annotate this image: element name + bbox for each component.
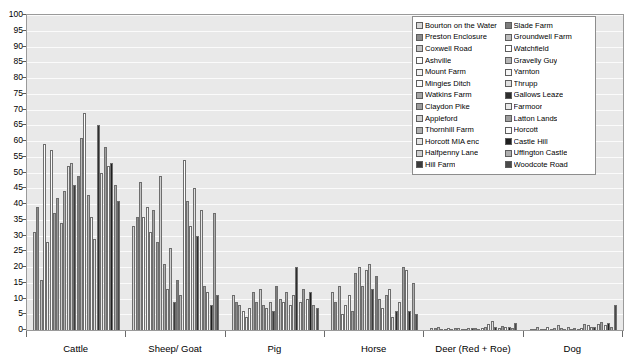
legend-item-label: Yarnton (514, 68, 540, 76)
legend-swatch-icon (416, 34, 423, 41)
bar-group (226, 15, 325, 330)
legend-item[interactable]: Uffington Castle (505, 148, 594, 160)
legend-swatch-icon (505, 103, 512, 110)
chart-legend: Bourton on the WaterPreston EnclosureCox… (412, 16, 596, 175)
legend-item-label: Hill Farm (425, 161, 455, 169)
legend-swatch-icon (416, 127, 423, 134)
x-tick-label: Dog (523, 343, 622, 354)
legend-item[interactable]: Gravelly Guy (505, 55, 594, 67)
bar-group (126, 15, 225, 330)
legend-swatch-icon (505, 161, 512, 168)
legend-item-label: Uffington Castle (514, 149, 568, 157)
y-tick-label: 100 (9, 10, 23, 18)
legend-swatch-icon (505, 69, 512, 76)
legend-swatch-icon (505, 127, 512, 134)
legend-item-label: Thornhill Farm (425, 126, 474, 134)
legend-item[interactable]: Coxwell Road (416, 43, 505, 55)
legend-item[interactable]: Gallows Leaze (505, 90, 594, 102)
legend-item-label: Castle Hill (514, 138, 548, 146)
legend-item[interactable]: Appleford (416, 113, 505, 125)
legend-item[interactable]: Woodcote Road (505, 159, 594, 171)
legend-item-label: Slade Farm (514, 22, 553, 30)
legend-swatch-icon (505, 45, 512, 52)
legend-item-label: Woodcote Road (514, 161, 568, 169)
legend-item-label: Watchfield (514, 45, 549, 53)
legend-swatch-icon (505, 80, 512, 87)
legend-item[interactable]: Groundwell Farm (505, 32, 594, 44)
legend-item-label: Preston Enclosure (425, 33, 487, 41)
bar-chart: 0510152025303540455055606570758085909510… (0, 0, 626, 362)
legend-swatch-icon (505, 57, 512, 64)
legend-item[interactable]: Ashville (416, 55, 505, 67)
x-tick-mark (324, 331, 325, 337)
x-tick-mark (26, 331, 27, 337)
legend-item-label: Groundwell Farm (514, 33, 572, 41)
legend-item-label: Gravelly Guy (514, 57, 558, 65)
x-axis: CattleSheep/ GoatPigHorseDeer (Red + Roe… (26, 331, 624, 362)
legend-item[interactable]: Preston Enclosure (416, 32, 505, 44)
legend-swatch-icon (416, 103, 423, 110)
legend-swatch-icon (416, 161, 423, 168)
x-tick-label: Horse (324, 343, 423, 354)
legend-swatch-icon (505, 22, 512, 29)
legend-item[interactable]: Hill Farm (416, 159, 505, 171)
legend-item-label: Mount Farm (425, 68, 466, 76)
legend-item-label: Halfpenny Lane (425, 149, 478, 157)
x-tick-mark (125, 331, 126, 337)
legend-item[interactable]: Horcott MIA enc (416, 136, 505, 148)
legend-item[interactable]: Castle Hill (505, 136, 594, 148)
legend-column-left: Bourton on the WaterPreston EnclosureCox… (416, 20, 505, 171)
legend-item[interactable]: Thrupp (505, 78, 594, 90)
legend-item[interactable]: Bourton on the Water (416, 20, 505, 32)
legend-item[interactable]: Slade Farm (505, 20, 594, 32)
legend-item[interactable]: Mount Farm (416, 66, 505, 78)
legend-item-label: Horcott MIA enc (425, 138, 479, 146)
bar (514, 323, 517, 330)
x-tick-mark (523, 331, 524, 337)
legend-item[interactable]: Horcott (505, 124, 594, 136)
x-tick-label: Sheep/ Goat (125, 343, 224, 354)
legend-item-label: Bourton on the Water (425, 22, 497, 30)
legend-swatch-icon (505, 92, 512, 99)
bar-group (27, 15, 126, 330)
legend-item[interactable]: Yarnton (505, 66, 594, 78)
x-tick-mark (423, 331, 424, 337)
legend-swatch-icon (416, 57, 423, 64)
legend-item-label: Ashville (425, 57, 451, 65)
legend-swatch-icon (416, 138, 423, 145)
legend-item-label: Farmoor (514, 103, 543, 111)
legend-item-label: Mingies Ditch (425, 80, 471, 88)
bar (614, 305, 617, 330)
legend-item[interactable]: Watchfield (505, 43, 594, 55)
legend-item[interactable]: Mingies Ditch (416, 78, 505, 90)
legend-item[interactable]: Claydon Pike (416, 101, 505, 113)
x-tick-mark (622, 331, 623, 337)
bar (316, 308, 319, 330)
x-tick-label: Cattle (26, 343, 125, 354)
legend-swatch-icon (416, 92, 423, 99)
legend-swatch-icon (505, 115, 512, 122)
legend-item[interactable]: Halfpenny Lane (416, 148, 505, 160)
legend-item-label: Horcott (514, 126, 538, 134)
legend-item[interactable]: Thornhill Farm (416, 124, 505, 136)
legend-item-label: Watkins Farm (425, 91, 472, 99)
legend-swatch-icon (416, 22, 423, 29)
bar (117, 201, 120, 330)
legend-item-label: Coxwell Road (425, 45, 472, 53)
legend-item[interactable]: Latton Lands (505, 113, 594, 125)
legend-swatch-icon (416, 69, 423, 76)
chart-title (0, 0, 626, 7)
bar (216, 295, 219, 330)
bar-group (325, 15, 424, 330)
legend-item[interactable]: Farmoor (505, 101, 594, 113)
legend-swatch-icon (416, 150, 423, 157)
legend-item[interactable]: Watkins Farm (416, 90, 505, 102)
x-tick-label: Deer (Red + Roe) (423, 343, 522, 354)
legend-item-label: Latton Lands (514, 115, 558, 123)
legend-swatch-icon (416, 45, 423, 52)
bar (415, 314, 418, 330)
legend-column-right: Slade FarmGroundwell FarmWatchfieldGrave… (505, 20, 594, 171)
x-tick-mark (225, 331, 226, 337)
legend-item-label: Gallows Leaze (514, 91, 564, 99)
legend-swatch-icon (505, 150, 512, 157)
